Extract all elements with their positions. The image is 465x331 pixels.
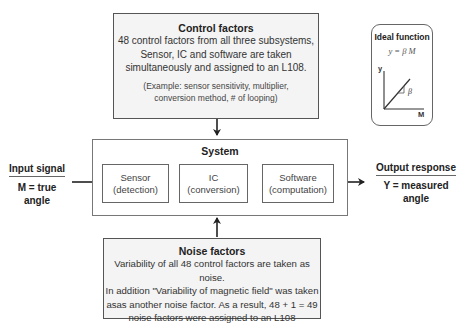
noise-factors-box: Noise factors Variability of all 48 cont… [103, 238, 321, 319]
control-factors-line: 48 control factors from all three subsys… [114, 34, 318, 48]
subsystem-name: Software [279, 172, 317, 184]
noise-factors-line: Variability of all 48 control factors ar… [104, 257, 320, 284]
subsystem-name: IC [209, 172, 219, 184]
slope-label: β [408, 87, 412, 96]
ideal-function-title: Ideal function [372, 32, 432, 42]
control-factors-example: conversion method, # of looping) [114, 92, 318, 104]
subsystem-software: Software (computation) [262, 164, 334, 203]
noise-factors-title: Noise factors [104, 245, 320, 257]
control-factors-box: Control factors 48 control factors from … [113, 13, 319, 119]
control-factors-title: Control factors [114, 22, 318, 34]
ideal-function-equation: y = β M [372, 46, 432, 56]
subsystem-sensor: Sensor (detection) [102, 164, 169, 203]
subsystem-ic: IC (conversion) [179, 164, 248, 203]
input-signal-label: Input signal M = true angle [4, 158, 70, 207]
control-factors-example: (Example: sensor sensitivity, multiplier… [114, 80, 318, 92]
input-signal-heading: Input signal [9, 163, 65, 177]
noise-factors-line: In addition "Variability of magnetic fie… [104, 284, 320, 298]
input-signal-value: M = true [4, 181, 70, 194]
noise-factors-line: noise factors were assigned to an L108 [104, 311, 320, 325]
x-axis-label: M [418, 110, 424, 119]
ideal-function-box: Ideal function y = β M y M β [371, 24, 433, 126]
control-factors-line: simultaneously and assigned to an L108. [114, 61, 318, 75]
noise-factors-line: asas another noise factor. As a result, … [104, 298, 320, 312]
system-title: System [93, 145, 347, 157]
output-response-value: Y = measured [370, 179, 462, 192]
input-signal-value: angle [4, 194, 70, 207]
subsystem-role: (detection) [113, 184, 158, 196]
subsystem-name: Sensor [120, 172, 150, 184]
output-response-label: Output response Y = measured angle [370, 157, 462, 205]
output-response-value: angle [370, 192, 462, 205]
subsystem-role: (conversion) [187, 184, 239, 196]
output-response-heading: Output response [376, 162, 456, 176]
subsystem-role: (computation) [269, 184, 327, 196]
y-axis-label: y [378, 64, 382, 73]
control-factors-line: Sensor, IC and software are taken [114, 48, 318, 62]
